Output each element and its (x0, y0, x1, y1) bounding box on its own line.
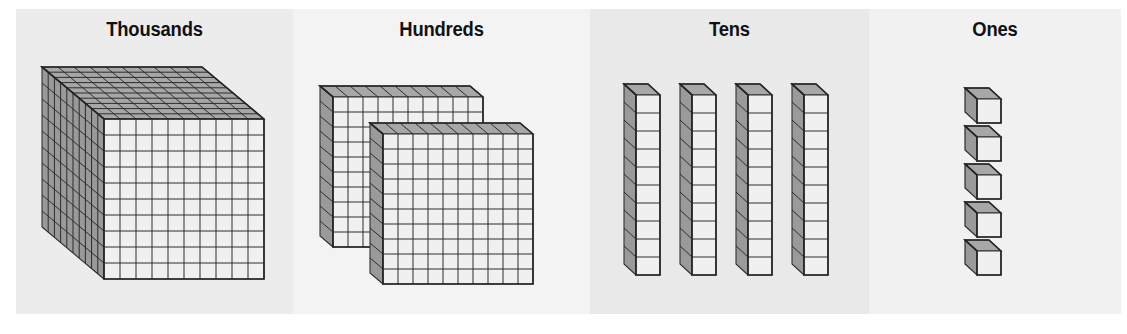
hundreds-flats-art (293, 9, 590, 314)
panel-hundreds: Hundreds (293, 9, 590, 314)
ones-cubes-art (869, 9, 1121, 314)
thousands-cube-art (16, 9, 293, 314)
ones-unit-cube (965, 240, 1001, 275)
tens-rod (736, 84, 772, 275)
panel-tens: Tens (590, 9, 869, 314)
panel-thousands: Thousands (16, 9, 293, 314)
ones-unit-cube (965, 202, 1001, 237)
panel-ones: Ones (869, 9, 1121, 314)
right-margin (1121, 9, 1127, 314)
tens-rods-art (590, 9, 869, 314)
base-ten-blocks-diagram: Thousands (0, 0, 1127, 334)
tens-rod (792, 84, 828, 275)
left-margin (0, 9, 16, 314)
thousands-cube-svg (16, 9, 293, 314)
tens-rod (680, 84, 716, 275)
ones-cubes-svg (869, 9, 1121, 314)
tens-rods-svg (590, 9, 869, 314)
panel-row: Thousands (0, 9, 1127, 314)
ones-unit-cube (965, 88, 1001, 123)
tens-rod (624, 84, 660, 275)
ones-unit-cube (965, 164, 1001, 199)
hundreds-flats-svg (293, 9, 590, 314)
ones-unit-cube (965, 126, 1001, 161)
hundreds-flat-front (370, 123, 533, 284)
